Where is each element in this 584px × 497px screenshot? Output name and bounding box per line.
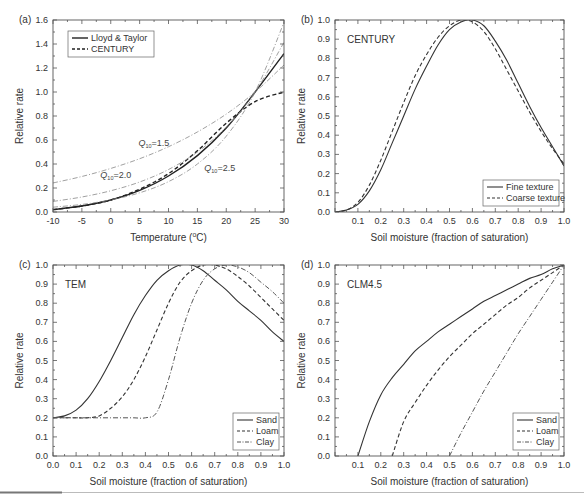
legend: Lloyd & TaylorCENTURY [68, 31, 154, 57]
y-tick-label: 0.7 [317, 317, 330, 327]
y-tick-label: 0.3 [317, 149, 330, 159]
x-tick-label: 0.6 [185, 460, 198, 470]
x-tick-label: 0.5 [162, 460, 175, 470]
y-tick-label: 0.1 [317, 188, 330, 198]
x-axis-title: Soil moisture (fraction of saturation) [90, 476, 248, 487]
x-tick-label: 25 [250, 216, 260, 226]
x-tick-label: -10 [46, 216, 59, 226]
q10-annotation: Q10=2.5 [204, 163, 235, 174]
y-tick-label: 0.7 [317, 73, 330, 83]
x-tick-label: 0.3 [116, 460, 129, 470]
y-tick-label: 0.4 [317, 130, 330, 140]
y-tick-label: 0.6 [35, 135, 48, 145]
x-tick-label: 15 [192, 216, 202, 226]
y-tick-label: 0.8 [35, 111, 48, 121]
model-title: TEM [65, 279, 86, 290]
y-tick-label: 1.0 [317, 15, 330, 25]
model-title: CLM4.5 [347, 279, 382, 290]
series-loam [53, 264, 284, 418]
y-axis-title: Relative rate [14, 87, 25, 144]
y-tick-label: 0.2 [35, 413, 48, 423]
x-tick-label: 0.8 [232, 460, 245, 470]
x-tick-label: 0.4 [420, 216, 433, 226]
y-tick-label: 0.0 [35, 207, 48, 217]
x-tick-label: 5 [137, 216, 142, 226]
y-tick-label: 1.4 [35, 39, 48, 49]
y-axis-title: Relative rate [296, 87, 307, 144]
y-tick-label: 1.0 [317, 260, 330, 270]
x-tick-label: 30 [279, 216, 289, 226]
y-tick-label: 0.3 [317, 394, 330, 404]
x-tick-label: 0.2 [375, 216, 388, 226]
x-tick-label: 0.2 [93, 460, 106, 470]
panel-c-tem-moisture: 0.00.10.20.30.40.50.60.70.80.91.00.00.10… [14, 259, 290, 487]
y-tick-label: 0.6 [317, 92, 330, 102]
plot-area [53, 264, 284, 418]
y-tick-label: 0.4 [317, 375, 330, 385]
y-tick-label: 0.0 [317, 207, 330, 217]
panel-a-temperature-response: -10-50510152025300.00.20.40.60.81.01.21.… [14, 14, 289, 243]
x-tick-label: 0 [108, 216, 113, 226]
x-tick-label: 0.3 [397, 460, 410, 470]
x-tick-label: 0.1 [352, 216, 365, 226]
series-century [53, 92, 284, 210]
y-tick-label: 0.9 [35, 279, 48, 289]
panel-letter: (d) [301, 259, 313, 270]
x-tick-label: 0.0 [47, 460, 60, 470]
x-tick-label: 0.7 [208, 460, 221, 470]
x-axis-title: Soil moisture (fraction of saturation) [371, 232, 529, 243]
x-tick-label: 10 [163, 216, 173, 226]
x-tick-label: 0.4 [139, 460, 152, 470]
y-tick-label: 1.0 [35, 260, 48, 270]
y-tick-label: 0.7 [35, 317, 48, 327]
y-tick-label: 0.5 [35, 356, 48, 366]
legend-entry: Clay [256, 437, 275, 447]
panel-letter: (c) [19, 259, 31, 270]
y-tick-label: 0.8 [317, 53, 330, 63]
x-tick-label: 1.0 [558, 460, 571, 470]
y-axis-title: Relative rate [14, 332, 25, 389]
series-q10-2-0 [53, 42, 284, 201]
x-tick-label: 0.7 [489, 460, 502, 470]
x-tick-label: 0.8 [512, 216, 525, 226]
legend-entry: Sand [536, 415, 557, 425]
panel-letter: (a) [19, 14, 31, 25]
x-tick-label: 0.1 [352, 460, 365, 470]
q10-annotation: Q10=2.0 [100, 170, 131, 181]
x-tick-label: 0.5 [443, 460, 456, 470]
x-tick-label: 0.9 [535, 216, 548, 226]
legend-entry: CENTURY [91, 44, 134, 54]
series-q10-1-5 [53, 65, 284, 183]
legend-entry: Clay [536, 437, 555, 447]
y-tick-label: 0.6 [35, 336, 48, 346]
y-tick-label: 0.8 [317, 298, 330, 308]
legend: SandLoamClay [513, 413, 559, 450]
legend: SandLoamClay [233, 413, 279, 450]
x-tick-label: 0.2 [375, 460, 388, 470]
panel-d-clm45-moisture: 0.10.20.30.40.50.60.70.80.91.00.00.10.20… [296, 259, 570, 487]
x-tick-label: 0.3 [397, 216, 410, 226]
legend-entry: Lloyd & Taylor [91, 33, 147, 43]
y-tick-label: 0.3 [35, 394, 48, 404]
x-tick-label: -5 [78, 216, 86, 226]
x-tick-label: 0.6 [466, 460, 479, 470]
y-tick-label: 0.2 [35, 183, 48, 193]
y-tick-label: 0.0 [35, 451, 48, 461]
series-clay [53, 265, 284, 418]
legend-entry: Loam [256, 426, 279, 436]
legend: Fine textureCoarse texture [483, 180, 565, 206]
x-tick-label: 1.0 [558, 216, 571, 226]
q10-annotation: Q10=1.5 [138, 138, 169, 149]
x-tick-label: 0.8 [512, 460, 525, 470]
x-tick-label: 0.9 [255, 460, 268, 470]
y-tick-label: 1.0 [35, 87, 48, 97]
x-tick-label: 1.0 [278, 460, 291, 470]
model-title: CENTURY [347, 34, 395, 45]
y-tick-label: 0.1 [317, 432, 330, 442]
x-tick-label: 0.9 [535, 460, 548, 470]
x-tick-label: 0.6 [466, 216, 479, 226]
legend-entry: Coarse texture [506, 193, 565, 203]
y-tick-label: 0.2 [317, 413, 330, 423]
y-tick-label: 0.1 [35, 432, 48, 442]
x-tick-label: 20 [221, 216, 231, 226]
